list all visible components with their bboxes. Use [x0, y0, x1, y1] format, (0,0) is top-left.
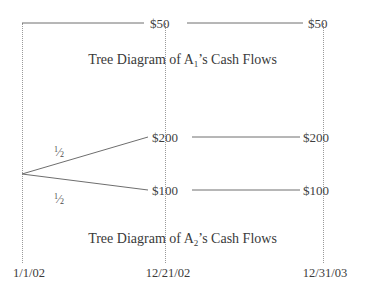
amount-a1-mid: $50 [150, 17, 170, 30]
amount-a1-end: $50 [308, 17, 328, 30]
caption-a2-tail: ’s Cash Flows [198, 231, 277, 246]
date-label-middle: 12/21/02 [146, 266, 190, 280]
a2-up-branch [22, 137, 148, 174]
amount-a2-up-end: $200 [303, 131, 329, 144]
caption-a2-text: Tree Diagram of A [88, 231, 194, 246]
a2-down-branch [22, 174, 148, 190]
tree-diagram-figure: $50 $50 $200 $200 $100 $100 1⁄2 1⁄2 Tree… [0, 0, 365, 288]
amount-a2-up-mid: $200 [152, 131, 178, 144]
amount-a2-down-mid: $100 [152, 184, 178, 197]
fraction-one-half-down: 1⁄2 [54, 191, 64, 207]
caption-a1: Tree Diagram of A1’s Cash Flows [0, 52, 365, 72]
probability-down-branch: 1⁄2 [54, 191, 64, 207]
probability-up-branch: 1⁄2 [54, 144, 64, 160]
caption-a1-text: Tree Diagram of A [88, 52, 194, 67]
date-label-end: 12/31/03 [303, 266, 347, 280]
caption-a1-tail: ’s Cash Flows [198, 52, 277, 67]
fraction-one-half-up: 1⁄2 [54, 144, 64, 160]
date-label-start: 1/1/02 [13, 266, 45, 280]
caption-a2: Tree Diagram of A2’s Cash Flows [0, 231, 365, 251]
amount-a2-down-end: $100 [303, 184, 329, 197]
